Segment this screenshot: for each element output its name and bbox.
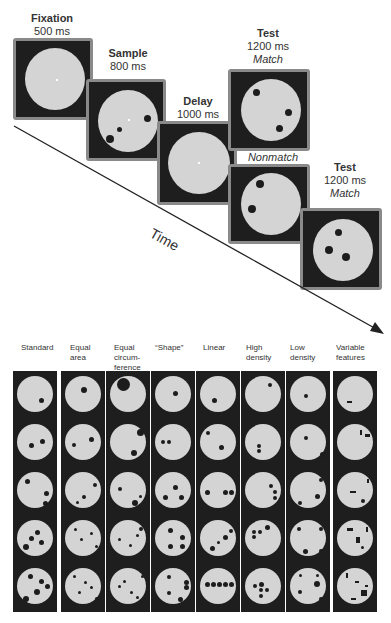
stimulus-cell bbox=[200, 424, 236, 460]
stimulus-cell bbox=[245, 568, 281, 604]
stimulus-cell bbox=[110, 568, 146, 604]
stimulus-cell bbox=[245, 376, 281, 412]
column-header-shape: “Shape” bbox=[155, 343, 195, 353]
stimulus-cell bbox=[155, 568, 191, 604]
stimulus-cell bbox=[17, 376, 53, 412]
stimulus-cell bbox=[17, 520, 53, 556]
stimulus-cell bbox=[200, 376, 236, 412]
stimulus-cell bbox=[337, 520, 373, 556]
column-header-standard: Standard bbox=[21, 343, 61, 353]
stimulus-cell bbox=[290, 424, 326, 460]
column-header-equal-area: Equal area bbox=[70, 343, 100, 363]
stimulus-cell bbox=[65, 568, 101, 604]
column-variable-features bbox=[333, 371, 377, 612]
stimulus-cell bbox=[65, 424, 101, 460]
stimulus-cell bbox=[110, 424, 146, 460]
column-header-variable-features: Variable features bbox=[336, 343, 376, 363]
column-equal-area bbox=[61, 371, 105, 612]
stimulus-cell bbox=[110, 376, 146, 412]
stimulus-cell bbox=[337, 568, 373, 604]
stimulus-cell bbox=[65, 520, 101, 556]
stimulus-cell bbox=[290, 376, 326, 412]
stimulus-cell bbox=[245, 520, 281, 556]
stimulus-cell bbox=[337, 424, 373, 460]
stimulus-cell bbox=[110, 520, 146, 556]
column-shape bbox=[151, 371, 195, 612]
column-header-equal-circumference: Equal circum- ference bbox=[114, 343, 144, 373]
stimulus-cell bbox=[155, 472, 191, 508]
stimulus-cell bbox=[155, 424, 191, 460]
column-equal-circumference bbox=[106, 371, 150, 612]
column-low-density bbox=[286, 371, 330, 612]
stimulus-cell bbox=[290, 568, 326, 604]
column-header-low-density: Low density bbox=[290, 343, 320, 363]
column-linear bbox=[196, 371, 240, 612]
stimulus-cell bbox=[337, 376, 373, 412]
stimulus-cell bbox=[200, 472, 236, 508]
column-header-linear: Linear bbox=[203, 343, 243, 353]
stimulus-cell bbox=[290, 520, 326, 556]
stimulus-cell bbox=[290, 472, 326, 508]
stimulus-cell bbox=[245, 472, 281, 508]
stimulus-cell bbox=[200, 520, 236, 556]
stimulus-cell bbox=[200, 568, 236, 604]
stimulus-cell bbox=[337, 472, 373, 508]
stimulus-cell bbox=[17, 472, 53, 508]
time-arrow bbox=[0, 0, 391, 340]
stimulus-cell bbox=[155, 376, 191, 412]
column-high-density bbox=[241, 371, 285, 612]
stimulus-cell bbox=[65, 472, 101, 508]
stimulus-cell bbox=[17, 424, 53, 460]
stimulus-cell bbox=[245, 424, 281, 460]
stimulus-cell bbox=[65, 376, 101, 412]
stimulus-cell bbox=[155, 520, 191, 556]
stimulus-cell bbox=[110, 472, 146, 508]
column-standard bbox=[13, 371, 57, 612]
stimulus-cell bbox=[17, 568, 53, 604]
column-header-high-density: High density bbox=[246, 343, 276, 363]
